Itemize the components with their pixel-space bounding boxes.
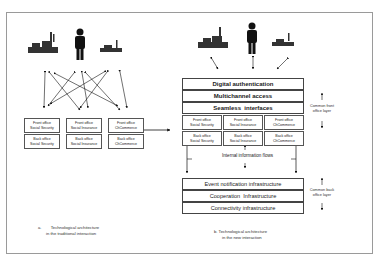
- right-back-office-social-insurance: Back office Social Insurance: [223, 131, 263, 146]
- factory-icon-left-small: [100, 40, 122, 52]
- box-label: ChCommerce: [115, 126, 137, 131]
- right-caption-line2: in the new interaction: [222, 235, 262, 241]
- layer-cooperation: Cooperation Infrastructure: [182, 190, 304, 202]
- common-front-office-layer-label: Common front office layer: [302, 104, 342, 114]
- box-label: Social Security: [30, 142, 54, 147]
- person-icon-right: [247, 23, 257, 55]
- left-back-office-social-insurance: Back office Social Insurance: [66, 134, 102, 149]
- left-front-office-social-security: Front office Social Security: [24, 118, 60, 133]
- box-label: Social Insurance: [71, 142, 98, 147]
- box-label: Social Insurance: [230, 123, 257, 128]
- box-label: Social Security: [190, 123, 214, 128]
- factory-icon-left: [28, 32, 58, 53]
- layer-digital-authentication: Digital authentication: [182, 78, 304, 90]
- right-front-office-chcommerce: Front office ChCommerce: [264, 115, 304, 130]
- left-front-office-social-insurance: Front office Social Insurance: [66, 118, 102, 133]
- factory-icon-right: [198, 27, 228, 48]
- layer-seamless-interfaces: Seamless interfaces: [182, 102, 304, 114]
- box-label: ChCommerce: [273, 123, 295, 128]
- right-front-office-social-security: Front office Social Security: [182, 115, 222, 130]
- left-back-office-social-security: Back office Social Security: [24, 134, 60, 149]
- left-front-office-chcommerce: Front office ChCommerce: [108, 118, 144, 133]
- side-label-line: office layer: [302, 109, 342, 114]
- layer-multichannel-access: Multichannel access: [182, 90, 304, 102]
- right-back-office-chcommerce: Back office ChCommerce: [264, 131, 304, 146]
- layer-connectivity: Connectivity infrastructure: [182, 202, 304, 214]
- box-label: Social Security: [190, 139, 214, 144]
- internal-information-flows-label: Internal information flows: [222, 153, 273, 158]
- box-label: Social Insurance: [230, 139, 257, 144]
- box-label: ChCommerce: [273, 139, 295, 144]
- left-caption-line2: in the traditional interaction: [46, 231, 96, 237]
- side-label-line: office layer: [302, 193, 342, 198]
- layer-event-notification: Event notification infrastructure: [182, 178, 304, 190]
- left-back-office-chcommerce: Back office ChCommerce: [108, 134, 144, 149]
- right-back-office-social-security: Back office Social Security: [182, 131, 222, 146]
- box-label: Social Insurance: [71, 126, 98, 131]
- person-icon-left: [75, 29, 85, 61]
- factory-icon-right-small: [272, 33, 294, 46]
- right-front-office-social-insurance: Front office Social Insurance: [223, 115, 263, 130]
- box-label: Social Security: [30, 126, 54, 131]
- box-label: ChCommerce: [115, 142, 137, 147]
- common-back-office-layer-label: Common back office layer: [302, 188, 342, 198]
